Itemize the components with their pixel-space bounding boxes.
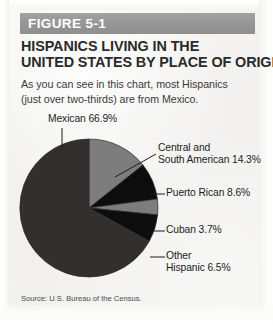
pie-label-other-line-2: Hispanic 6.5%	[166, 262, 231, 274]
pie-label-cuban: Cuban 3.7%	[166, 224, 222, 236]
figure-content: FIGURE 5-1 HISPANICS LIVING IN THE UNITE…	[0, 0, 273, 325]
pie-label-mexican-line-1: Mexican 66.9%	[48, 113, 117, 125]
pie-label-cuban-line-1: Cuban 3.7%	[166, 224, 222, 236]
figure-title-line-1: HISPANICS LIVING IN THE	[21, 38, 261, 54]
pie-label-puerto-rican-line-1: Puerto Rican 8.6%	[166, 187, 250, 199]
figure-source: Source: U.S. Bureau of the Census.	[21, 294, 142, 304]
figure-title: HISPANICS LIVING IN THE UNITED STATES BY…	[21, 38, 261, 71]
pie-label-puerto-rican: Puerto Rican 8.6%	[166, 187, 250, 199]
figure-title-line-2: UNITED STATES BY PLACE OF ORIGIN	[21, 54, 261, 70]
figure-description-line-1: As you can see in this chart, most Hispa…	[21, 77, 259, 92]
pie-label-other-hispanic: Other Hispanic 6.5%	[166, 250, 231, 275]
pie-label-other-line-1: Other	[166, 250, 231, 262]
pie-label-central-line-1: Central and	[158, 142, 261, 154]
figure-number-band: FIGURE 5-1	[20, 13, 255, 34]
pie-label-mexican: Mexican 66.9%	[48, 113, 117, 125]
pie-label-central-south-american: Central and South American 14.3%	[158, 142, 261, 167]
pie-chart: Mexican 66.9% Central and South American…	[0, 104, 273, 290]
figure-panel: FIGURE 5-1 HISPANICS LIVING IN THE UNITE…	[0, 0, 273, 325]
pie-label-central-line-2: South American 14.3%	[158, 154, 261, 166]
figure-number-label: FIGURE 5-1	[28, 16, 106, 31]
figure-description: As you can see in this chart, most Hispa…	[21, 77, 259, 106]
